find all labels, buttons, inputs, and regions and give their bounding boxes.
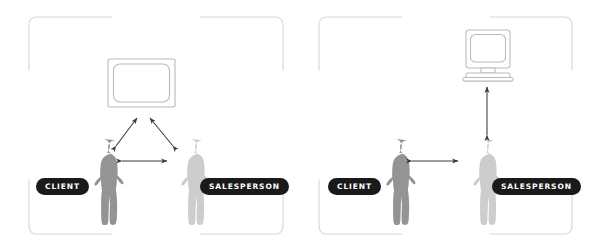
diagram-vector-layer <box>0 0 600 251</box>
label-client-right-text: CLIENT <box>337 183 372 191</box>
figure-client-left <box>94 139 123 225</box>
computer-monitor-icon <box>463 30 513 81</box>
television-icon <box>108 59 175 107</box>
figure-client-right <box>386 139 415 225</box>
label-salesperson-left: SALESPERSON <box>200 178 289 195</box>
label-client-left: CLIENT <box>36 178 89 195</box>
arrow-client-to-screen <box>116 118 137 146</box>
arrow-salesperson-to-screen <box>150 118 173 146</box>
label-client-right: CLIENT <box>328 178 381 195</box>
label-salesperson-right: SALESPERSON <box>492 178 581 195</box>
diagram-canvas: CLIENT SALESPERSON CLIENT SALESPERSON <box>0 0 600 251</box>
label-salesperson-right-text: SALESPERSON <box>501 183 572 191</box>
right-panel-frame <box>319 17 572 234</box>
label-salesperson-left-text: SALESPERSON <box>209 183 280 191</box>
label-client-left-text: CLIENT <box>45 183 80 191</box>
